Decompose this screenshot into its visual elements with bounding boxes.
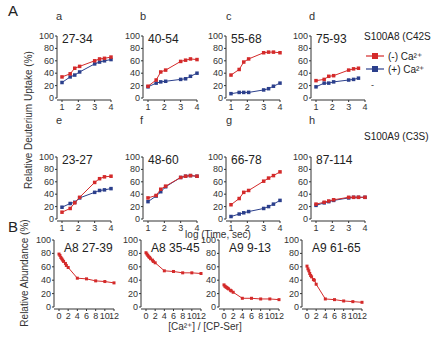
data-point (352, 67, 356, 71)
data-point (146, 200, 150, 204)
x-tick-label: 8 (180, 311, 185, 321)
y-tick-label: 20 (298, 202, 308, 212)
y-tick-label: 0 (49, 214, 54, 224)
x-tick-label: 6 (84, 311, 89, 321)
y-tick-label: 100 (293, 31, 308, 41)
data-point (237, 212, 241, 216)
data-point (272, 202, 276, 206)
data-point (324, 297, 327, 300)
data-point (184, 174, 188, 178)
y-tick-label: 80 (130, 164, 140, 174)
y-tick-label: 100 (125, 31, 140, 41)
data-point (314, 79, 318, 83)
x-tick-label: 2 (66, 311, 71, 321)
data-point (327, 81, 331, 85)
data-point (189, 174, 193, 178)
data-point (363, 196, 367, 200)
data-point (200, 272, 203, 275)
data-point (232, 291, 235, 294)
y-tick-label: 0 (133, 302, 138, 312)
chart-B4: A9 61-65020406080100024681012 (284, 235, 367, 321)
data-point (332, 80, 336, 84)
data-point (189, 57, 193, 61)
y-tick-label: 20 (213, 202, 223, 212)
data-point (109, 174, 113, 178)
data-point (272, 50, 276, 54)
subpanel-letter-a: a (56, 10, 63, 22)
y-tick-label: 80 (298, 164, 308, 174)
data-point (322, 78, 326, 82)
data-point (60, 81, 64, 85)
y-tick-label: 60 (298, 56, 308, 66)
data-point (154, 261, 157, 264)
data-point (313, 279, 316, 282)
data-point (73, 66, 77, 70)
y-tick-label: 80 (206, 248, 216, 258)
data-point (278, 51, 282, 55)
data-point (268, 297, 271, 300)
x-tick-label: 4 (323, 311, 328, 321)
data-point (357, 76, 361, 80)
y-tick-label: 60 (213, 177, 223, 187)
data-point (247, 210, 251, 214)
data-point (195, 58, 199, 62)
data-point (242, 211, 246, 215)
data-point (327, 199, 331, 203)
data-point (190, 271, 193, 274)
x-tick-label: 2 (245, 223, 250, 233)
data-point (351, 300, 354, 303)
x-tick-label: 2 (330, 102, 335, 112)
y-tick-label: 100 (39, 152, 54, 162)
data-point (315, 283, 318, 286)
data-point (154, 194, 158, 198)
x-tick-label: 1 (59, 102, 64, 112)
x-tick-label: 0 (304, 311, 309, 321)
chart-d: d75-930204060801001234 (293, 10, 368, 112)
y-tick-label: 0 (303, 214, 308, 224)
subpanel-letter-b: b (140, 10, 146, 22)
data-point (68, 202, 72, 206)
y-tick-label: 60 (128, 262, 138, 272)
trailing-dash: - (371, 80, 374, 90)
y-tick-label: 20 (130, 81, 140, 91)
data-point (159, 70, 163, 74)
series-line (62, 60, 111, 83)
y-tick-label: 100 (208, 31, 223, 41)
data-point (73, 73, 77, 77)
b-xlabel: [Ca²⁺] / [CP-Ser] (168, 321, 242, 332)
x-tick-label: 3 (92, 102, 97, 112)
data-point (267, 50, 271, 54)
data-point (229, 215, 233, 219)
x-tick-label: 6 (171, 311, 176, 321)
data-point (352, 78, 356, 82)
data-point (146, 84, 150, 88)
x-tick-label: 1 (313, 102, 318, 112)
chart-title: 27-34 (62, 32, 93, 46)
y-tick-label: 40 (213, 189, 223, 199)
y-tick-label: 80 (44, 164, 54, 174)
data-point (247, 91, 251, 95)
y-tick-label: 40 (44, 189, 54, 199)
y-tick-label: 40 (213, 68, 223, 78)
data-point (306, 265, 309, 268)
y-tick-label: 80 (44, 43, 54, 53)
y-tick-label: 0 (211, 302, 216, 312)
x-tick-label: 3 (346, 102, 351, 112)
chart-h: h87-1140204060801001234 (293, 114, 368, 233)
chart-title: 75-93 (316, 32, 347, 46)
data-point (103, 188, 107, 192)
y-tick-label: 20 (213, 81, 223, 91)
data-point (322, 81, 326, 85)
x-tick-label: 4 (277, 223, 282, 233)
y-tick-label: 0 (218, 214, 223, 224)
x-tick-label: 12 (109, 311, 119, 321)
data-point (93, 62, 97, 66)
x-tick-label: 2 (76, 102, 81, 112)
x-tick-label: 3 (178, 223, 183, 233)
subpanel-letter-g: g (226, 114, 232, 126)
legend-label-plus-ca: (+) Ca²⁺ (388, 64, 424, 75)
x-tick-label: 4 (75, 311, 80, 321)
data-point (357, 66, 361, 70)
data-point (237, 68, 241, 72)
y-tick-label: 40 (289, 275, 299, 285)
